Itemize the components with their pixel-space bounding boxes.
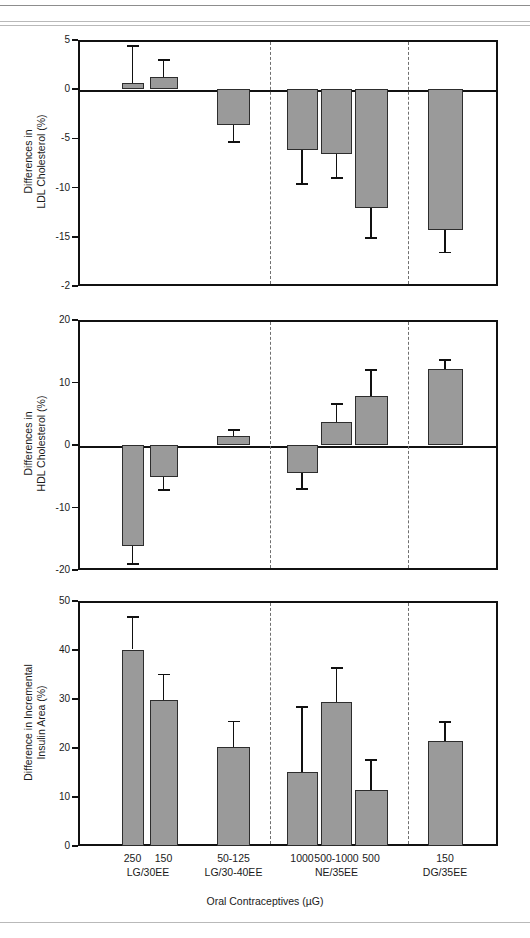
bar-panel3-4 [321, 702, 352, 846]
y-tick-panel2-3 [72, 507, 78, 509]
error-bar-line-panel2-1 [163, 477, 165, 490]
y-tick-label-panel2-4: -20 [30, 565, 70, 575]
error-bar-cap-panel1-2 [228, 141, 240, 143]
y-tick-label-panel1-5: -2 [30, 281, 70, 291]
error-bar-line-panel1-2 [233, 125, 235, 143]
error-bar-cap-panel3-2 [228, 721, 240, 723]
x-tick-label-dose-1: 150 [129, 852, 199, 864]
y-tick-label-panel2-0: 20 [30, 315, 70, 325]
error-bar-line-panel1-0 [132, 46, 134, 83]
error-bar-line-panel3-2 [233, 722, 235, 747]
error-bar-line-panel3-1 [163, 675, 165, 701]
group-divider-1-panel2 [270, 322, 271, 568]
error-bar-line-panel2-5 [370, 370, 372, 396]
error-bar-cap-panel1-4 [331, 177, 343, 179]
y-tick-panel1-5 [72, 285, 78, 287]
error-bar-cap-panel1-0 [127, 45, 139, 47]
error-bar-cap-panel2-6 [439, 359, 451, 361]
y-tick-label-panel3-1: 40 [30, 645, 70, 655]
y-tick-label-panel1-1: 0 [30, 84, 70, 94]
group-divider-2-panel2 [408, 322, 409, 568]
y-tick-label-panel1-3: -10 [30, 183, 70, 193]
y-tick-panel3-1 [72, 649, 78, 651]
bar-panel1-5 [355, 89, 388, 208]
x-group-label-1: LG/30-40EE [174, 866, 294, 878]
y-tick-label-panel3-2: 30 [30, 694, 70, 704]
error-bar-line-panel3-4 [336, 668, 338, 702]
error-bar-line-panel3-0 [132, 617, 134, 649]
y-tick-panel2-0 [72, 319, 78, 321]
x-group-label-3: DG/35EE [385, 866, 505, 878]
error-bar-cap-panel2-1 [158, 489, 170, 491]
y-tick-panel1-4 [72, 236, 78, 238]
y-tick-label-panel1-0: 5 [30, 35, 70, 45]
error-bar-line-panel3-3 [301, 707, 303, 772]
y-tick-panel1-1 [72, 88, 78, 90]
y-tick-label-panel3-3: 20 [30, 743, 70, 753]
scan-artifact-rule-top [0, 5, 530, 6]
error-bar-line-panel2-0 [132, 546, 134, 564]
error-bar-cap-panel1-6 [439, 252, 451, 254]
error-bar-cap-panel3-4 [331, 667, 343, 669]
error-bar-line-panel1-4 [336, 154, 338, 178]
y-axis-title-ldl-line2: LDL Cholesterol (%) [34, 114, 46, 208]
y-tick-label-panel1-4: -15 [30, 232, 70, 242]
group-divider-2-panel1 [408, 42, 409, 284]
y-tick-label-panel2-2: 0 [30, 440, 70, 450]
bar-panel2-1 [150, 445, 178, 477]
x-tick-label-dose-6: 150 [410, 852, 480, 864]
bar-panel2-0 [122, 445, 144, 546]
y-tick-label-panel2-3: -10 [30, 503, 70, 513]
bar-panel3-0 [122, 650, 144, 846]
y-tick-panel2-4 [72, 569, 78, 571]
bar-panel1-1 [150, 77, 178, 89]
y-tick-label-panel3-5: 0 [30, 841, 70, 851]
bar-panel3-1 [150, 700, 178, 846]
y-tick-label-panel3-0: 50 [30, 596, 70, 606]
error-bar-cap-panel3-3 [296, 706, 308, 708]
error-bar-cap-panel2-2 [228, 429, 240, 431]
error-bar-line-panel2-3 [301, 473, 303, 490]
error-bar-line-panel1-3 [301, 150, 303, 183]
y-tick-label-panel1-2: -5 [30, 133, 70, 143]
bar-panel2-6 [428, 369, 463, 445]
error-bar-cap-panel2-3 [296, 488, 308, 490]
error-bar-cap-panel3-6 [439, 721, 451, 723]
y-tick-panel1-3 [72, 187, 78, 189]
y-tick-panel3-2 [72, 698, 78, 700]
y-axis-title-insulin-line1: Difference in Incremental [22, 664, 34, 781]
group-divider-2-panel3 [408, 603, 409, 844]
y-tick-panel3-5 [72, 845, 78, 847]
y-axis-title-insulin: Difference in Incremental Insulin Area (… [22, 627, 47, 817]
error-bar-line-panel3-5 [370, 760, 372, 790]
bar-panel3-2 [217, 747, 250, 846]
error-bar-cap-panel1-3 [296, 183, 308, 185]
bar-panel2-4 [321, 422, 352, 445]
bar-panel1-3 [287, 89, 318, 150]
scan-artifact-rule-bottom [0, 922, 530, 923]
error-bar-cap-panel3-1 [158, 674, 170, 676]
bar-panel1-0 [122, 83, 144, 89]
error-bar-line-panel2-4 [336, 404, 338, 422]
error-bar-line-panel1-6 [444, 230, 446, 253]
y-tick-panel3-4 [72, 796, 78, 798]
error-bar-line-panel1-5 [370, 208, 372, 238]
x-group-label-2: NE/35EE [277, 866, 397, 878]
bar-panel1-2 [217, 89, 250, 124]
scan-artifact-rule-second [0, 21, 530, 22]
bar-panel2-3 [287, 445, 318, 473]
error-bar-cap-panel1-1 [158, 59, 170, 61]
x-tick-label-dose-2: 50-125 [199, 852, 269, 864]
y-tick-label-panel2-1: 10 [30, 378, 70, 388]
error-bar-cap-panel1-5 [365, 237, 377, 239]
x-tick-label-dose-5: 500 [336, 852, 406, 864]
error-bar-cap-panel2-5 [365, 369, 377, 371]
error-bar-cap-panel2-0 [127, 563, 139, 565]
y-axis-title-ldl: Differences in LDL Cholesterol (%) [22, 87, 47, 237]
error-bar-cap-panel2-4 [331, 403, 343, 405]
x-axis-title: Oral Contraceptives (µG) [0, 895, 530, 907]
bar-panel3-5 [355, 790, 388, 846]
y-tick-panel3-3 [72, 747, 78, 749]
error-bar-line-panel2-6 [444, 360, 446, 369]
y-tick-panel1-0 [72, 39, 78, 41]
